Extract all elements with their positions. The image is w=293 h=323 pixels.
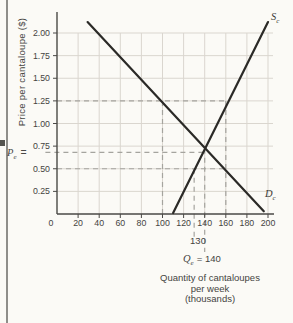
qe-equals-value: = 140	[194, 253, 221, 264]
y-tick-label: 1.25	[33, 96, 50, 106]
x-tick-label: 100	[155, 218, 170, 228]
supply-curve	[173, 22, 268, 213]
supply-label-subscript: c	[276, 17, 279, 25]
x-tick-label: 160	[218, 218, 233, 228]
y-tick-label: 1.50	[33, 73, 50, 83]
y-axis-title: Price per cantaloupe ($)	[17, 18, 27, 127]
x-axis-title-line1: Quantity of cantaloupes	[144, 273, 276, 283]
x-axis-title-line3: (thousands)	[144, 294, 276, 304]
pe-equals: =	[17, 146, 27, 158]
x-tick-label: 180	[240, 218, 255, 228]
x-tick-label: 0	[49, 218, 54, 228]
x-tick-label: 80	[137, 218, 147, 228]
y-tick-label: 0.25	[33, 186, 50, 196]
demand-label-subscript: c	[273, 194, 276, 202]
x-tick-label: 60	[115, 218, 125, 228]
qe-letter: Q	[183, 253, 191, 264]
quantity-130-label: 130	[184, 236, 212, 246]
demand-curve-label: Dc	[265, 188, 276, 202]
y-tick-label: 2.00	[33, 28, 50, 38]
equilibrium-quantity-label: Qe= 140	[183, 253, 221, 267]
x-tick-label: 140	[197, 218, 212, 228]
x-tick-label: 200	[261, 218, 276, 228]
scanned-page: 0204060801001201401601802000.250.500.751…	[0, 0, 293, 323]
y-tick-label: 1.00	[33, 119, 50, 129]
x-tick-label: 20	[73, 218, 83, 228]
x-tick-label: 40	[94, 218, 104, 228]
x-tick-label: 120	[176, 218, 191, 228]
equilibrium-price-label: Pe=	[7, 147, 27, 161]
y-tick-label: 0.50	[33, 164, 50, 174]
y-tick-label: 1.75	[33, 51, 50, 61]
demand-label-letter: D	[265, 188, 273, 199]
supply-curve-label: Sc	[271, 11, 279, 25]
y-tick-label: 0.75	[33, 141, 50, 151]
demand-curve	[88, 22, 264, 211]
